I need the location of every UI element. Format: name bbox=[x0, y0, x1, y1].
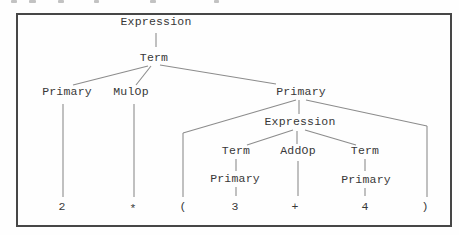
edge-term-primary-right bbox=[160, 65, 276, 84]
tree-node-expression-root: Expression bbox=[120, 15, 191, 29]
tree-leaf-leaf-4: 4 bbox=[361, 200, 368, 214]
tree-node-primary-inner-right: Primary bbox=[341, 173, 391, 187]
tree-leaf-leaf-star: * bbox=[129, 202, 136, 216]
figure-canvas: ExpressionTermPrimaryMulOpPrimaryExpress… bbox=[0, 0, 459, 235]
tree-leaf-leaf-2: 2 bbox=[58, 200, 65, 214]
edge-expression-term-right bbox=[305, 130, 356, 145]
tree-node-primary-right: Primary bbox=[276, 85, 326, 99]
edge-expression-term-left bbox=[247, 130, 293, 145]
tree-edges-layer bbox=[0, 0, 459, 235]
tree-node-primary-left: Primary bbox=[42, 85, 92, 99]
tree-node-addop: AddOp bbox=[280, 144, 316, 158]
tree-node-term-inner-left: Term bbox=[222, 144, 250, 158]
tree-node-term-root: Term bbox=[140, 51, 168, 65]
tree-leaf-leaf-3: 3 bbox=[231, 200, 238, 214]
edge-term-primary-left bbox=[73, 66, 148, 85]
tree-leaf-leaf-plus: + bbox=[291, 200, 298, 214]
tree-node-mulop: MulOp bbox=[113, 85, 149, 99]
tree-node-primary-inner-left: Primary bbox=[210, 172, 260, 186]
tree-node-expression-inner: Expression bbox=[264, 115, 335, 129]
tree-node-term-inner-right: Term bbox=[351, 144, 379, 158]
tree-leaf-leaf-rparen: ) bbox=[421, 200, 428, 214]
tree-leaf-leaf-lparen: ( bbox=[179, 200, 186, 214]
